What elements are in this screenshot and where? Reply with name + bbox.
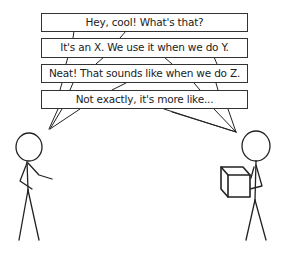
- right-figure-head: [242, 131, 270, 161]
- box-icon: [221, 167, 250, 197]
- speech-bubble-3: Neat! That sounds like when we do Z.: [41, 64, 248, 83]
- comic-panel: Hey, cool! What's that? It's an X. We us…: [0, 0, 283, 255]
- speech-bubble-1: Hey, cool! What's that?: [41, 13, 248, 32]
- speech-bubble-4: Not exactly, it's more like...: [41, 90, 248, 109]
- speech-bubble-2: It's an X. We use it when we do Y.: [41, 38, 248, 58]
- left-figure-head: [16, 133, 42, 161]
- left-stick-figure: [16, 133, 52, 240]
